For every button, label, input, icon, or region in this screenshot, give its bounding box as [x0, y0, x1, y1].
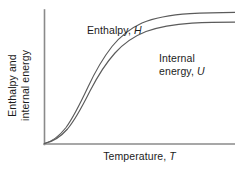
- series-label-internal-energy-line1: Internal: [159, 52, 195, 64]
- series-label-enthalpy: Enthalpy, H: [87, 24, 142, 37]
- x-axis-label: Temperature, T: [44, 150, 235, 163]
- x-axis-label-symbol: T: [169, 150, 176, 162]
- curve-internal-energy-u: [45, 22, 236, 143]
- series-label-enthalpy-text: Enthalpy,: [87, 24, 131, 36]
- x-axis-label-text: Temperature,: [103, 150, 166, 162]
- chart-figure: Enthalpy and internal energy Temperature…: [0, 0, 235, 171]
- series-label-internal-energy: Internal energy, U: [159, 52, 205, 78]
- y-axis-label-line1: Enthalpy and: [6, 54, 18, 117]
- series-label-enthalpy-symbol: H: [134, 24, 142, 36]
- series-label-internal-energy-symbol: U: [197, 65, 205, 77]
- y-axis-label: Enthalpy and internal energy: [0, 0, 40, 171]
- y-axis-label-line2: internal energy: [19, 50, 31, 121]
- series-label-internal-energy-text: energy,: [159, 65, 194, 77]
